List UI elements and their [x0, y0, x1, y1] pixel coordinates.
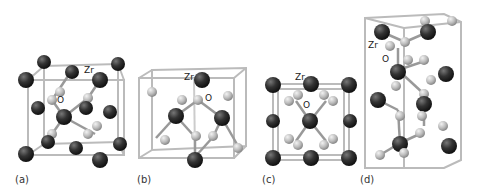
panel-c-atoms: [265, 76, 357, 166]
crystal-structures-figure: [0, 0, 481, 194]
panel-d-o-label: O: [382, 54, 389, 64]
panel-b-o-label: O: [205, 93, 212, 103]
panel-c-o-label: O: [303, 100, 310, 110]
panel-a-label: (a): [15, 174, 29, 185]
panel-d-zr-label: Zr: [368, 40, 378, 50]
panel-a-o-label: O: [57, 95, 64, 105]
panel-d-label: (d): [360, 174, 374, 185]
panel-c-label: (c): [262, 174, 275, 185]
panel-c-zr-label: Zr: [295, 72, 305, 82]
panel-b-label: (b): [137, 174, 151, 185]
panel-b-zr-label: Zr: [184, 72, 194, 82]
panel-a-zr-label: Zr: [84, 65, 94, 75]
